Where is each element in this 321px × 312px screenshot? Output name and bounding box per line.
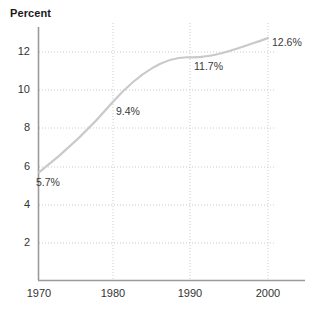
y-tick-label-6: 6: [4, 160, 30, 172]
horizontal-gridlines: [39, 52, 276, 243]
data-label-1990: 11.7%: [194, 60, 223, 72]
x-tick-label-1970: 1970: [17, 287, 61, 299]
vertical-gridlines: [113, 23, 268, 280]
y-tick-label-10: 10: [4, 83, 30, 95]
y-tick-label-8: 8: [4, 121, 30, 133]
y-tick-label-12: 12: [4, 45, 30, 57]
data-label-1980: 9.4%: [116, 105, 140, 117]
data-label-1970: 5.7%: [36, 176, 60, 188]
x-tick-label-2000: 2000: [246, 287, 290, 299]
x-tick-label-1980: 1980: [91, 287, 135, 299]
line-chart: Percent 12 10 8 6 4 2 1970 1980 1990 2: [0, 0, 321, 312]
y-tick-label-2: 2: [4, 236, 30, 248]
y-tick-label-4: 4: [4, 198, 30, 210]
data-line-percent: [39, 38, 268, 172]
x-tick-label-1990: 1990: [168, 287, 212, 299]
data-label-2000: 12.6%: [272, 36, 302, 48]
